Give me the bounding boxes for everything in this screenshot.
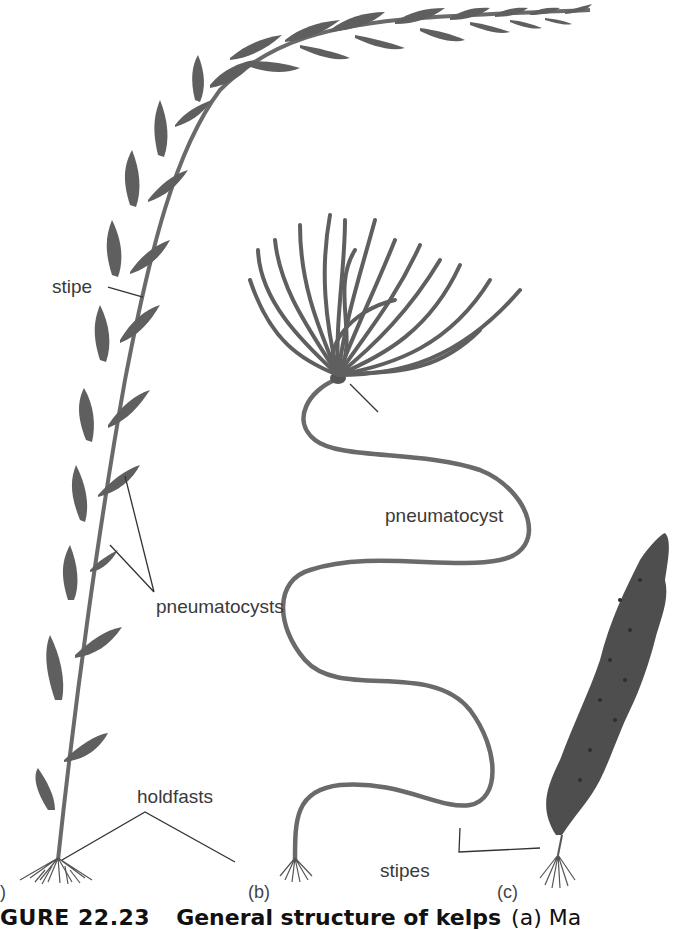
label-pneumatocyst: pneumatocyst <box>385 505 503 527</box>
fronds <box>250 215 520 375</box>
panel-label-b: (b) <box>248 882 270 903</box>
panel-label-a: ) <box>0 882 6 903</box>
holdfast-b <box>280 858 312 882</box>
stipe-leader <box>108 287 143 297</box>
holdfast-c <box>540 855 575 888</box>
caption-title: General structure of kelps <box>176 905 501 930</box>
label-stipe: stipe <box>52 276 92 298</box>
kelp-a-macrocystis <box>20 4 592 884</box>
blade-c <box>546 533 669 835</box>
stipe-c <box>558 835 562 855</box>
pneumatocyst-leader <box>350 384 378 412</box>
figure-caption: GURE 22.23General structure of kelps(a) … <box>0 905 581 930</box>
holdfast-a <box>20 858 92 884</box>
label-stipes: stipes <box>380 860 430 882</box>
holdfasts-leader <box>62 812 235 862</box>
label-pneumatocysts: pneumatocysts <box>156 596 284 618</box>
label-holdfasts: holdfasts <box>137 786 213 808</box>
pneumatocysts-leader <box>110 476 154 592</box>
caption-text: (a) Ma <box>511 905 581 930</box>
kelp-b-nereocystis <box>250 215 529 882</box>
kelp-c-laminaria <box>540 533 669 888</box>
stipes-leader <box>459 828 540 852</box>
caption-number: GURE 22.23 <box>0 905 150 930</box>
panel-label-c: (c) <box>497 882 518 903</box>
